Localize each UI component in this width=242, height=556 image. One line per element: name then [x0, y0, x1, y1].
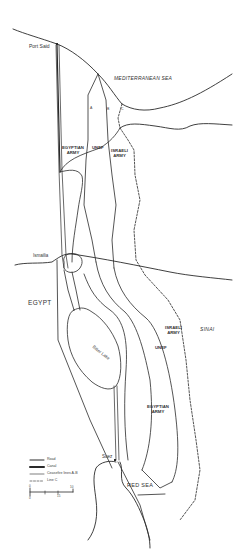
ismailia-label: Ismailia — [33, 254, 48, 259]
red-sea-west-coast — [88, 461, 116, 540]
map-canvas — [0, 0, 242, 556]
scale-top-end: 10 — [70, 486, 73, 489]
legend-canal-label: Canal — [47, 465, 56, 469]
legend-ceasefire-label: Ceasefire lines A-B — [47, 472, 78, 476]
army-zone-boundary — [84, 274, 128, 460]
legend-road-label: Road — [47, 458, 56, 462]
suez-label: Suez — [102, 455, 112, 460]
israeli-army-south-label: ISRAELI ARMY — [165, 325, 182, 335]
egyptian-army-south-label: EGYPTIAN ARMY — [147, 404, 169, 414]
red-sea-label: RED SEA — [127, 483, 153, 489]
line-a-label: A — [90, 107, 92, 111]
egypt-label: EGYPT — [28, 300, 52, 307]
israeli-army-north-label: ISRAELI ARMY — [111, 148, 128, 158]
road-west-inner — [72, 272, 80, 310]
suez-marker — [114, 459, 116, 461]
suez-canal-south — [117, 386, 119, 460]
unef-south-label: UNEF — [155, 345, 167, 350]
scale-bottom-end: 15 — [57, 495, 60, 498]
scale-bottom-start: 0 — [29, 497, 31, 500]
line-b-label: B — [107, 108, 109, 112]
ceasefire-line-b — [98, 74, 116, 268]
mediterranean-sea-label: MEDITERRANEAN SEA — [114, 76, 172, 81]
sinai-band-south — [138, 494, 165, 495]
scale-top-start: 0 — [29, 485, 31, 488]
sinai-label: SINAI — [200, 327, 215, 332]
unef-north-label: UNEF — [92, 145, 104, 150]
sinai-north-coast — [120, 124, 232, 130]
army-zone-boundary — [60, 170, 83, 262]
port-said-marker — [56, 43, 58, 45]
suez-canal — [59, 45, 68, 268]
suez-canal-south — [114, 386, 116, 460]
port-said-label: Port Said — [29, 44, 50, 49]
mediterranean-coastline — [13, 29, 232, 110]
line-c — [118, 104, 200, 520]
line-c-label: C — [121, 108, 124, 112]
legend-line-c-label: Line C — [47, 479, 57, 483]
egyptian-army-north-label: EGYPTIAN ARMY — [62, 145, 84, 155]
ceasefire-line-a — [84, 74, 98, 262]
road-west — [57, 260, 112, 468]
